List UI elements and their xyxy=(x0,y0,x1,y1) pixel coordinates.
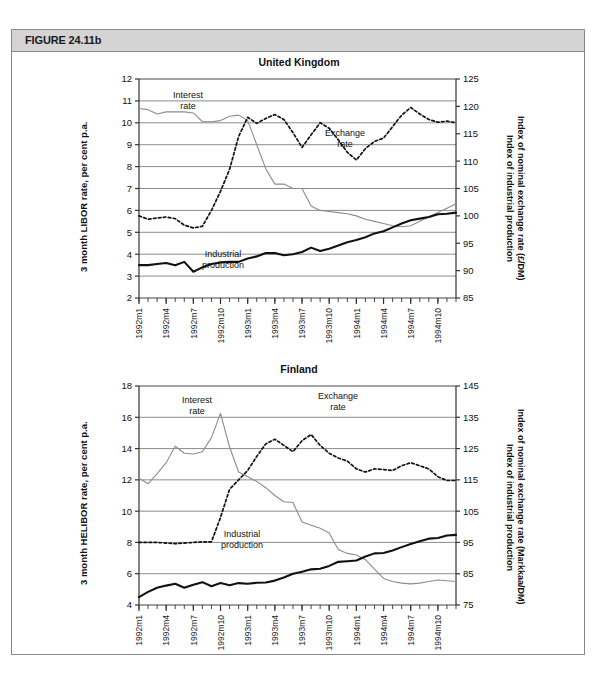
svg-text:1992m7: 1992m7 xyxy=(189,615,199,646)
series-line-exchange-rate xyxy=(139,434,456,543)
svg-text:115: 115 xyxy=(463,474,478,485)
svg-text:100: 100 xyxy=(463,210,479,221)
svg-text:1993m7: 1993m7 xyxy=(297,615,307,646)
svg-text:10: 10 xyxy=(121,506,132,517)
svg-text:75: 75 xyxy=(463,599,474,610)
svg-text:8: 8 xyxy=(127,537,132,548)
svg-text:125: 125 xyxy=(463,73,479,84)
svg-text:120: 120 xyxy=(463,101,479,112)
svg-text:production: production xyxy=(221,540,263,550)
svg-text:1992m1: 1992m1 xyxy=(134,308,144,339)
svg-text:1993m1: 1993m1 xyxy=(243,615,253,646)
figure-container: FIGURE 24.11b United Kingdom 3 month LIB… xyxy=(11,29,585,655)
annotation-exchange-rate: Exchangerate xyxy=(318,391,358,412)
svg-text:16: 16 xyxy=(121,412,132,423)
svg-text:85: 85 xyxy=(463,568,474,579)
svg-text:95: 95 xyxy=(463,537,474,548)
svg-text:135: 135 xyxy=(463,412,479,423)
svg-text:1994m7: 1994m7 xyxy=(406,308,416,339)
svg-text:1993m4: 1993m4 xyxy=(270,615,280,646)
svg-text:1992m1: 1992m1 xyxy=(134,615,144,646)
series-line-industrial-production xyxy=(139,535,456,597)
svg-text:Industrial: Industrial xyxy=(224,529,261,539)
svg-text:4: 4 xyxy=(127,249,132,260)
svg-text:Interest: Interest xyxy=(182,395,213,405)
svg-text:Exchange: Exchange xyxy=(325,128,365,138)
svg-text:rate: rate xyxy=(337,139,353,149)
svg-text:4: 4 xyxy=(127,599,132,610)
chart-plot-finland: 46810121416187585951051151251351451992m1… xyxy=(12,337,586,677)
svg-text:5: 5 xyxy=(127,227,132,238)
svg-text:12: 12 xyxy=(121,474,132,485)
svg-text:14: 14 xyxy=(121,443,132,454)
svg-text:11: 11 xyxy=(122,95,132,106)
svg-text:1994m7: 1994m7 xyxy=(406,615,416,646)
svg-text:1994m4: 1994m4 xyxy=(379,308,389,339)
svg-text:9: 9 xyxy=(127,139,132,150)
svg-text:115: 115 xyxy=(463,128,478,139)
svg-text:8: 8 xyxy=(127,161,132,172)
svg-text:1992m4: 1992m4 xyxy=(161,308,171,339)
svg-text:7: 7 xyxy=(127,183,132,194)
annotation-industrial-production: Industrialproduction xyxy=(221,529,263,550)
svg-text:85: 85 xyxy=(463,292,474,303)
svg-text:6: 6 xyxy=(127,205,132,216)
svg-text:18: 18 xyxy=(121,380,132,391)
annotation-industrial-production: Industrialproduction xyxy=(202,249,244,270)
svg-text:rate: rate xyxy=(180,101,196,111)
svg-text:1992m10: 1992m10 xyxy=(216,615,226,651)
svg-text:1994m1: 1994m1 xyxy=(352,615,362,646)
series-line-interest-rate xyxy=(139,109,456,227)
svg-text:rate: rate xyxy=(189,406,205,416)
svg-text:90: 90 xyxy=(463,265,474,276)
svg-text:Interest: Interest xyxy=(173,90,204,100)
series-line-exchange-rate xyxy=(139,107,456,227)
annotation-interest-rate: Interestrate xyxy=(182,395,213,416)
chart-plot-uk: 2345678910111285909510010511011512012519… xyxy=(12,30,586,370)
svg-text:1993m7: 1993m7 xyxy=(297,308,307,339)
svg-text:105: 105 xyxy=(463,506,479,517)
svg-text:1994m4: 1994m4 xyxy=(379,615,389,646)
svg-text:1993m4: 1993m4 xyxy=(270,308,280,339)
svg-text:1993m1: 1993m1 xyxy=(243,308,253,339)
svg-text:production: production xyxy=(202,260,244,270)
series-line-interest-rate xyxy=(139,413,456,584)
svg-text:1994m10: 1994m10 xyxy=(433,615,443,651)
svg-text:95: 95 xyxy=(463,238,474,249)
svg-text:Exchange: Exchange xyxy=(318,391,358,401)
svg-text:145: 145 xyxy=(463,380,479,391)
svg-text:12: 12 xyxy=(121,73,132,84)
svg-text:1992m7: 1992m7 xyxy=(189,308,199,339)
svg-text:1993m10: 1993m10 xyxy=(324,615,334,651)
svg-text:Industrial: Industrial xyxy=(205,249,242,259)
svg-text:105: 105 xyxy=(463,183,479,194)
series-line-industrial-production xyxy=(139,213,456,272)
svg-text:2: 2 xyxy=(127,292,132,303)
svg-text:110: 110 xyxy=(463,156,478,167)
svg-text:1992m4: 1992m4 xyxy=(161,615,171,646)
annotation-exchange-rate: Exchangerate xyxy=(325,128,365,149)
svg-text:6: 6 xyxy=(127,568,132,579)
svg-text:10: 10 xyxy=(121,117,132,128)
svg-text:3: 3 xyxy=(127,271,132,282)
svg-text:rate: rate xyxy=(330,402,346,412)
svg-text:125: 125 xyxy=(463,443,479,454)
svg-text:1994m1: 1994m1 xyxy=(352,308,362,339)
